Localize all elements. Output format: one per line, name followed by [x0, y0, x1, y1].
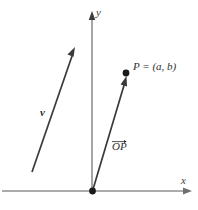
point-p-dot: [123, 70, 130, 77]
vector-op-shaft: [93, 83, 125, 191]
over-arrow-icon: [112, 139, 127, 144]
vector-diagram: y x v OP P = (a, b): [0, 0, 198, 210]
vector-op-label: OP: [112, 140, 127, 152]
point-p-label: P = (a, b): [133, 61, 176, 72]
vector-v-label: v: [40, 107, 45, 118]
origin-dot: [89, 188, 96, 195]
vector-op-label-text-group: OP: [112, 140, 127, 152]
vector-v-shaft: [32, 56, 72, 173]
x-axis-label: x: [181, 175, 186, 186]
diagram-canvas: [0, 0, 198, 210]
vector-v-arrowhead: [67, 47, 75, 57]
y-axis-arrowhead: [89, 11, 96, 20]
x-axis-arrowhead: [183, 188, 192, 195]
vector-op-arrowhead: [121, 76, 127, 86]
y-axis-label: y: [96, 7, 101, 18]
